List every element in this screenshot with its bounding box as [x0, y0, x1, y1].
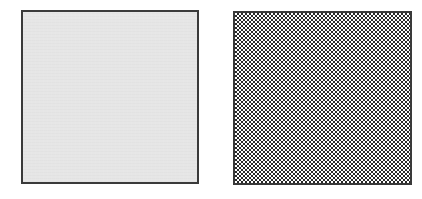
- checkerboard-square: [233, 11, 412, 185]
- uniform-gray-square: [21, 10, 199, 184]
